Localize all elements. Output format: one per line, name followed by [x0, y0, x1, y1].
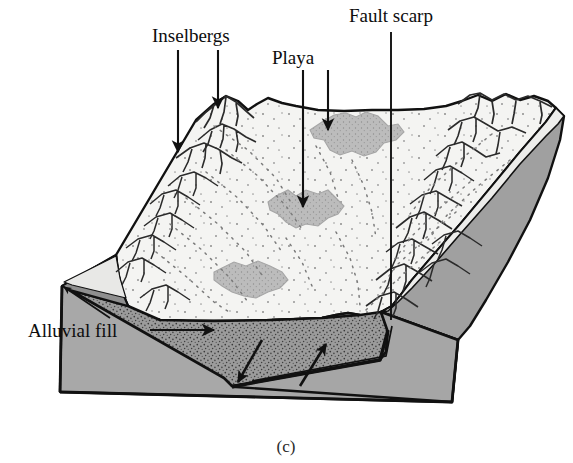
label-playa: Playa [272, 47, 315, 68]
label-fault-scarp: Fault scarp [349, 5, 433, 26]
label-alluvial-fill: Alluvial fill [28, 320, 117, 341]
diagram-canvas: Inselbergs Playa Fault scarp Alluvial fi… [0, 0, 573, 463]
figure-caption: (c) [277, 437, 296, 456]
block-model [60, 94, 564, 402]
figure-block-diagram: Inselbergs Playa Fault scarp Alluvial fi… [0, 0, 573, 463]
label-inselbergs: Inselbergs [152, 25, 230, 46]
